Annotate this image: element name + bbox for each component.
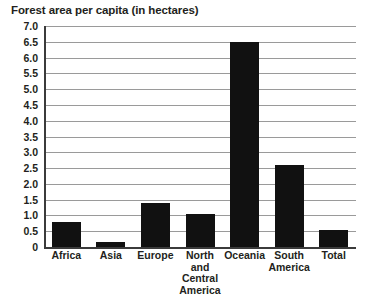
gridline: [44, 184, 356, 185]
x-axis-category-label-line: America: [263, 262, 316, 274]
bar: [141, 203, 170, 247]
y-axis-tick-label: 1.5: [4, 194, 38, 205]
y-axis-tick-label: 2.0: [4, 179, 38, 190]
bar: [319, 230, 348, 247]
bar: [230, 42, 259, 247]
bar: [96, 242, 125, 247]
bar: [186, 214, 215, 247]
gridline: [44, 105, 356, 106]
y-axis-tick-label: 4.5: [4, 100, 38, 111]
gridline: [44, 73, 356, 74]
y-axis-tick-label: 3.0: [4, 147, 38, 158]
x-axis-category-label-line: America: [174, 285, 227, 297]
bar: [275, 165, 304, 247]
y-axis-line: [44, 26, 46, 248]
x-axis-category-label: Total: [307, 250, 360, 262]
gridline: [44, 42, 356, 43]
gridline: [44, 137, 356, 138]
gridline: [44, 89, 356, 90]
y-axis-tick-labels: 7.06.56.05.55.04.54.03.53.02.52.01.51.00…: [0, 26, 38, 247]
y-axis-tick-label: 5.5: [4, 68, 38, 79]
y-axis-tick-label: 6.5: [4, 37, 38, 48]
y-axis-tick-label: 2.5: [4, 163, 38, 174]
chart-title: Forest area per capita (in hectares): [11, 4, 199, 16]
y-axis-tick-label: 0: [4, 242, 38, 253]
gridline: [44, 200, 356, 201]
gridline: [44, 121, 356, 122]
gridline: [44, 168, 356, 169]
x-axis-category-label-line: Total: [307, 250, 360, 262]
gridline: [44, 58, 356, 59]
y-axis-tick-label: 5.0: [4, 84, 38, 95]
y-axis-tick-label: 3.5: [4, 131, 38, 142]
x-axis-category-label-line: and Central: [174, 262, 227, 285]
x-axis-category-labels: AfricaAsiaEuropeNorthand CentralAmericaO…: [44, 250, 356, 296]
y-axis-tick-label: 6.0: [4, 52, 38, 63]
plot-area: [44, 26, 356, 247]
gridline: [44, 26, 356, 27]
y-axis-tick-label: 1.0: [4, 210, 38, 221]
y-axis-tick-label: 4.0: [4, 115, 38, 126]
y-axis-tick-label: 0.5: [4, 226, 38, 237]
bar: [52, 222, 81, 247]
y-axis-tick-label: 7.0: [4, 21, 38, 32]
forest-area-bar-chart: Forest area per capita (in hectares) 7.0…: [0, 0, 370, 297]
gridline: [44, 152, 356, 153]
